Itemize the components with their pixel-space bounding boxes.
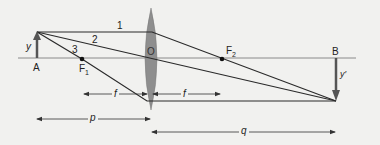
lens-ray-diagram: y A 1 2 3 O F1 F2 B y′ f f p q [0, 0, 380, 145]
focal-point-1-dot [80, 57, 85, 62]
ray-3-label: 3 [72, 45, 78, 55]
focal-point-1-subscript: 1 [85, 69, 89, 76]
image-height-label: y′ [340, 70, 346, 79]
focal-point-2-label: F2 [226, 46, 236, 56]
focal-length-left-label: f [112, 89, 119, 99]
object-distance-label: p [88, 113, 98, 123]
focal-point-2-subscript: 2 [232, 51, 236, 58]
focal-length-right-label: f [181, 89, 188, 99]
diagram-graphics [0, 0, 380, 145]
ray-1-label: 1 [117, 21, 123, 31]
image-distance-label: q [239, 126, 249, 136]
lens-center-label: O [147, 47, 155, 57]
image-point-label: B [332, 47, 339, 57]
object-point-label: A [33, 63, 40, 73]
ray-2-label: 2 [92, 35, 98, 45]
focal-point-2-dot [220, 57, 225, 62]
object-height-label: y [26, 42, 31, 52]
focal-point-1-label: F1 [79, 64, 89, 74]
